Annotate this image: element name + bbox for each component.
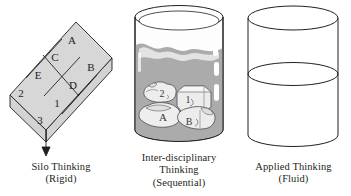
silo-cell-label-2: 2 bbox=[18, 87, 24, 99]
rock-label-1: 1 bbox=[186, 94, 191, 105]
silo-cell-label-1: 1 bbox=[54, 97, 60, 109]
silo-cell-label-B: B bbox=[87, 61, 94, 73]
panel-interdisciplinary-thinking: 2 1 A bbox=[122, 0, 236, 196]
caption-line: Applied Thinking bbox=[236, 161, 351, 173]
caption-silo-thinking: Silo Thinking (Rigid) bbox=[0, 161, 122, 186]
glass-highlight-streak bbox=[214, 62, 219, 76]
rock-label-B: B bbox=[186, 116, 193, 127]
caption-line: Silo Thinking bbox=[0, 161, 122, 173]
glass-rim-inner bbox=[139, 11, 219, 30]
caption-line: (Sequential) bbox=[122, 177, 236, 189]
thinking-models-figure: A B C D E 1 2 3 Silo Thinking (Rigid) bbox=[0, 0, 351, 196]
glass-highlight-streak bbox=[213, 44, 218, 56]
interdisciplinary-thinking-diagram: 2 1 A bbox=[122, 0, 236, 152]
caption-applied-thinking: Applied Thinking (Fluid) bbox=[236, 161, 351, 186]
panel-silo-thinking: A B C D E 1 2 3 Silo Thinking (Rigid) bbox=[0, 0, 122, 196]
glass-highlight-streak bbox=[214, 84, 219, 101]
applied-thinking-diagram bbox=[236, 0, 351, 158]
silo-cell-label-D: D bbox=[69, 79, 77, 91]
silo-cell-label-C: C bbox=[51, 51, 58, 63]
caption-line: (Rigid) bbox=[0, 173, 122, 185]
panel-applied-thinking: Applied Thinking (Fluid) bbox=[236, 0, 351, 196]
rock-label-2: 2 bbox=[160, 88, 165, 99]
caption-interdisciplinary-thinking: Inter-disciplinary Thinking (Sequential) bbox=[122, 152, 236, 189]
caption-line: Inter-disciplinary bbox=[122, 152, 236, 164]
silo-cell-label-3: 3 bbox=[37, 114, 43, 126]
silo-thinking-diagram: A B C D E 1 2 3 bbox=[0, 0, 122, 158]
arrow-head-icon bbox=[42, 147, 50, 156]
caption-line: (Fluid) bbox=[236, 173, 351, 185]
silo-cell-label-A: A bbox=[68, 34, 76, 46]
caption-line: Thinking bbox=[122, 164, 236, 176]
rock-label-A: A bbox=[159, 111, 167, 123]
glass-highlight-streak bbox=[138, 52, 141, 72]
silo-cell-label-E: E bbox=[35, 69, 42, 81]
cylinder-top-rim bbox=[248, 6, 338, 30]
